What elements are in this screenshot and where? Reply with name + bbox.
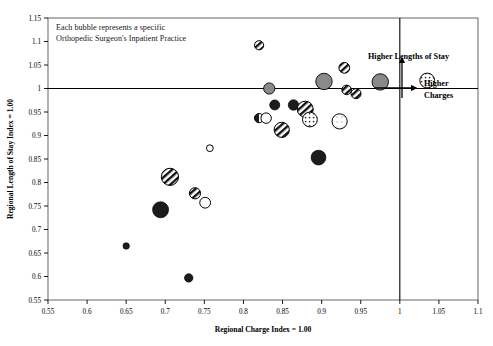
x-tick-label: 0.7 — [161, 308, 170, 316]
x-tick-label: 0.85 — [276, 308, 289, 316]
bubble-point — [261, 113, 271, 123]
x-tick-label: 0.6 — [83, 308, 92, 316]
y-tick-label: 1 — [37, 85, 41, 93]
x-tick-label: 1.1 — [474, 308, 483, 316]
y-tick-label: 1.05 — [28, 62, 41, 70]
bubble-point — [316, 73, 332, 89]
bubble-point — [274, 122, 289, 137]
y-tick-label: 1.1 — [32, 38, 41, 46]
x-tick-label: 0.75 — [198, 308, 211, 316]
x-tick-label: 0.9 — [317, 308, 326, 316]
bubble-point — [123, 243, 129, 249]
bubble-point — [189, 188, 200, 199]
bubble-point — [339, 62, 350, 73]
bubble-point — [342, 85, 352, 95]
y-tick-label: 0.65 — [28, 250, 41, 258]
bubble-point — [200, 197, 211, 208]
bubble-point — [270, 100, 280, 110]
bubble-point — [332, 114, 347, 129]
y-tick-label: 0.8 — [32, 179, 41, 187]
y-axis-ticks: 0.550.60.650.70.750.80.850.90.9511.051.1… — [28, 15, 48, 305]
bubble-point — [303, 112, 318, 127]
bubble-point — [311, 150, 326, 165]
y-tick-label: 0.95 — [28, 109, 41, 117]
y-tick-label: 0.7 — [32, 226, 41, 234]
x-tick-label: 1.05 — [433, 308, 446, 316]
bubble-point — [185, 274, 193, 282]
x-tick-label: 0.8 — [239, 308, 248, 316]
x-axis-title: Regional Charge Index = 1.00 — [215, 325, 312, 334]
bubble-point — [351, 89, 361, 99]
bubble-point — [264, 83, 275, 94]
bubble-point — [153, 202, 169, 218]
bubble-point — [206, 145, 213, 152]
note-line-1: Each bubble represents a specific — [56, 23, 165, 32]
y-axis-title: Regional Length of Stay Index = 1.00 — [6, 99, 15, 219]
x-axis-ticks: 0.550.60.650.70.750.80.850.90.9511.051.1 — [42, 300, 483, 316]
x-tick-label: 0.65 — [120, 308, 133, 316]
x-tick-label: 0.95 — [354, 308, 367, 316]
higher-charges-label-line2: Charges — [424, 91, 453, 100]
y-tick-label: 0.85 — [28, 156, 41, 164]
x-tick-label: 1 — [398, 308, 402, 316]
bubble-point — [254, 41, 263, 50]
y-tick-label: 1.15 — [28, 15, 41, 23]
y-tick-label: 0.9 — [32, 132, 41, 140]
note-line-2: Orthopedic Surgeon's Inpatient Practice — [56, 34, 187, 43]
scatter-plot-canvas: 0.550.60.650.70.750.80.850.90.9511.051.1… — [0, 0, 493, 346]
y-tick-label: 0.6 — [32, 273, 41, 281]
x-tick-label: 0.55 — [42, 308, 55, 316]
y-tick-label: 0.55 — [28, 297, 41, 305]
bubble-chart-figure: 0.550.60.650.70.750.80.850.90.9511.051.1… — [0, 0, 493, 346]
y-tick-label: 0.75 — [28, 203, 41, 211]
higher-lengths-of-stay-label: Higher Lengths of Stay — [368, 52, 450, 61]
bubble-point — [161, 168, 178, 185]
higher-charges-label-line1: Higher — [424, 79, 449, 88]
